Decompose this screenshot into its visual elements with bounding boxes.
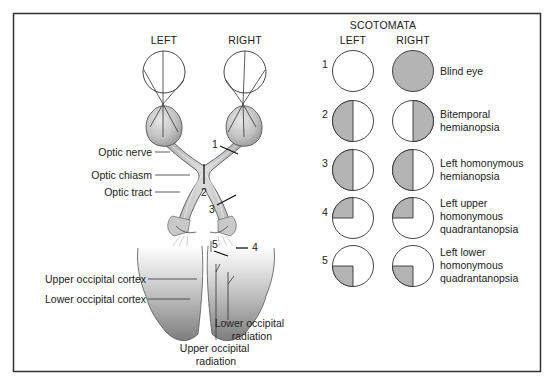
- svg-text:4: 4: [322, 206, 328, 218]
- svg-text:5: 5: [322, 254, 328, 266]
- scotoma-left-none: [333, 51, 374, 92]
- label-optic-chiasm: Optic chiasm: [91, 169, 152, 181]
- label-lower-occipital-cortex: Lower occipital cortex: [45, 293, 147, 305]
- label-optic-nerve: Optic nerve: [98, 146, 152, 158]
- scotoma-right-right-half: [393, 101, 434, 142]
- svg-text:3: 3: [322, 157, 328, 169]
- scotoma-right-left-half: [393, 150, 434, 191]
- scotoma-right-full: [393, 51, 434, 92]
- scotoma-row-4: 4 Left upper homonymous quadrantanopsia: [322, 197, 518, 239]
- label-optic-tract: Optic tract: [104, 186, 152, 198]
- scotomata-title: SCOTOMATA: [350, 19, 417, 31]
- svg-text:3: 3: [209, 203, 215, 215]
- scotoma-left-upper-left-quadrant: [333, 198, 374, 239]
- svg-text:5: 5: [212, 238, 218, 250]
- scotomata-col-left: LEFT: [340, 34, 367, 46]
- label-upper-occipital-cortex: Upper occipital cortex: [45, 273, 147, 285]
- scotoma-right-lower-left-quadrant: [393, 246, 434, 287]
- svg-text:Blind eye: Blind eye: [440, 65, 483, 77]
- anatomy-header-right: RIGHT: [228, 34, 262, 46]
- svg-text:1: 1: [212, 138, 218, 150]
- scotoma-left-lower-left-quadrant: [332, 246, 373, 287]
- svg-text:1: 1: [322, 58, 328, 70]
- scotomata-col-right: RIGHT: [396, 34, 430, 46]
- svg-text:2: 2: [322, 108, 328, 120]
- visual-pathway-figure: LEFT RIGHT: [0, 0, 550, 386]
- svg-text:2: 2: [201, 186, 207, 198]
- scotoma-left-left-half: [332, 101, 373, 142]
- scotoma-right-upper-left-quadrant: [393, 198, 434, 239]
- scotoma-left-left-half: [332, 150, 373, 191]
- svg-text:Bitemporal hemianopsia: Bitemporal hemianopsia: [440, 108, 500, 133]
- anatomy-header-left: LEFT: [151, 34, 178, 46]
- svg-text:4: 4: [252, 241, 258, 253]
